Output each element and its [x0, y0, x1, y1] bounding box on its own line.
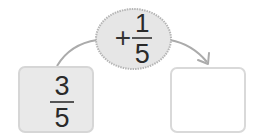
start-numerator: 3	[54, 74, 69, 99]
start-denominator: 5	[54, 106, 69, 131]
operation-bubble: + 1 5	[95, 8, 172, 70]
connector-arrow-right	[170, 40, 207, 62]
start-value-box: 3 5	[18, 66, 94, 133]
plus-operator: +	[115, 22, 131, 54]
operation-fraction: 1 5	[132, 11, 152, 67]
operation-numerator: 1	[135, 11, 149, 35]
connector-curve-left	[57, 40, 97, 66]
start-fraction: 3 5	[50, 74, 74, 131]
result-answer-box[interactable]	[170, 67, 246, 133]
operation-denominator: 5	[135, 42, 150, 67]
